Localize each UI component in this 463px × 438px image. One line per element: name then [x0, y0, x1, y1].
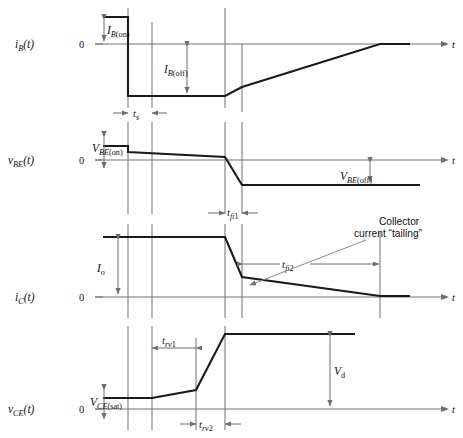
- switching-waveform-figure: IB(on) IB(off) ts 0 t iB(t): [0, 0, 463, 438]
- waveform-base-emitter-voltage: [103, 146, 420, 185]
- waveform-collector-emitter-voltage: [103, 334, 355, 398]
- label-vd: Vd: [334, 365, 345, 380]
- tailing-note-line2: current “tailing”: [354, 228, 423, 239]
- time-label-4: t: [452, 404, 456, 415]
- panel-collector-emitter-voltage: VCE(sat) Vd trv1 trv2 0 t vCE(t): [8, 326, 456, 433]
- label-tfi1: tfi1: [227, 207, 239, 221]
- label-ib-off: IB(off): [163, 63, 188, 78]
- waveform-collector-current: [103, 237, 410, 296]
- signal-label-base-emitter-voltage: vBE(t): [8, 154, 34, 169]
- signal-label-collector-current: iC(t): [15, 291, 35, 306]
- label-ib-on: IB(on): [106, 24, 130, 39]
- panel-base-emitter-voltage: VBE(on) VBE(off) 0 t vBE(t): [8, 122, 456, 214]
- time-axis-arrow-2: [441, 157, 449, 163]
- time-axis-arrow-3: [441, 294, 449, 300]
- tailing-leader-line: [250, 240, 366, 285]
- zero-label-3: 0: [79, 292, 84, 303]
- zero-label-4: 0: [79, 404, 84, 415]
- time-label-3: t: [452, 292, 456, 303]
- label-ts: ts: [133, 108, 139, 122]
- time-axis-arrow-1: [441, 41, 449, 47]
- time-axis-arrow-4: [441, 406, 449, 412]
- label-trv1: trv1: [162, 335, 176, 349]
- label-vbe-off: VBE(off): [340, 170, 372, 185]
- waveform-base-current: [103, 17, 410, 96]
- label-io: Io: [96, 262, 105, 277]
- signal-label-base-current: iB(t): [15, 38, 34, 53]
- tailing-note-line1: Collector: [379, 216, 420, 227]
- panel-collector-current: Io tfi2 Collector current “tailing” 0 t …: [15, 216, 456, 318]
- label-vbe-on: VBE(on): [92, 142, 123, 157]
- panel-base-current: IB(on) IB(off) ts 0 t iB(t): [15, 8, 456, 122]
- time-label-1: t: [452, 39, 456, 50]
- label-trv2: trv2: [199, 419, 213, 433]
- zero-label-2: 0: [79, 155, 84, 166]
- signal-label-collector-emitter-voltage: vCE(t): [8, 403, 35, 418]
- time-label-2: t: [452, 155, 456, 166]
- waveform-diagram: IB(on) IB(off) ts 0 t iB(t): [0, 0, 463, 438]
- zero-label-1: 0: [79, 39, 84, 50]
- label-tfi2: tfi2: [282, 259, 294, 273]
